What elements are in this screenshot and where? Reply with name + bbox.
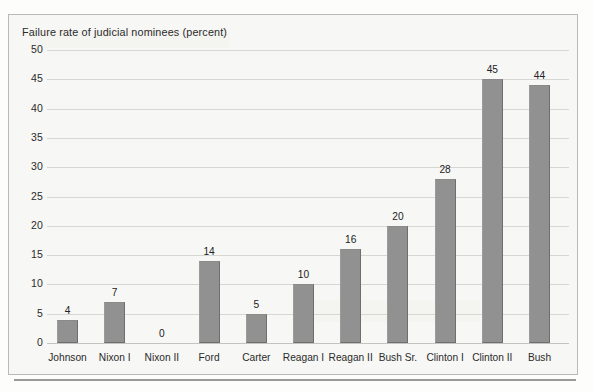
value-label-bush: 44 — [520, 70, 560, 81]
value-label-nixon-i: 7 — [95, 287, 135, 298]
value-label-ford: 14 — [189, 246, 229, 257]
y-tick-label-45: 45 — [17, 72, 43, 84]
chart-figure: Failure rate of judicial nominees (perce… — [0, 0, 593, 392]
value-label-carter: 5 — [236, 299, 276, 310]
y-tick-label-30: 30 — [17, 160, 43, 172]
bar-reagan-i — [293, 284, 314, 343]
bar-clinton-ii — [482, 79, 503, 343]
chart-title: Failure rate of judicial nominees (perce… — [22, 26, 227, 38]
bar-reagan-ii — [340, 249, 361, 343]
gridline-50 — [47, 50, 569, 51]
y-tick-label-10: 10 — [17, 277, 43, 289]
y-tick-label-15: 15 — [17, 248, 43, 260]
value-label-clinton-ii: 45 — [472, 64, 512, 75]
value-label-reagan-ii: 16 — [331, 234, 371, 245]
y-tick-label-5: 5 — [17, 307, 43, 319]
bar-johnson — [57, 320, 78, 343]
bar-clinton-i — [435, 179, 456, 343]
y-tick-label-25: 25 — [17, 190, 43, 202]
y-tick-label-40: 40 — [17, 102, 43, 114]
bar-carter — [246, 314, 267, 343]
value-label-nixon-ii: 0 — [142, 328, 182, 339]
bar-nixon-i — [104, 302, 125, 343]
value-label-johnson: 4 — [48, 305, 88, 316]
value-label-reagan-i: 10 — [284, 269, 324, 280]
gridline-0 — [47, 343, 569, 344]
category-label-bush: Bush — [508, 352, 572, 363]
plot-area: Failure rate of judicial nominees (perce… — [0, 0, 593, 392]
y-tick-label-50: 50 — [17, 43, 43, 55]
bar-bush — [529, 85, 550, 343]
value-label-bush-sr: 20 — [378, 211, 418, 222]
y-tick-label-20: 20 — [17, 219, 43, 231]
bottom-rule — [14, 379, 576, 381]
value-label-clinton-i: 28 — [425, 164, 465, 175]
bar-bush-sr — [387, 226, 408, 343]
bar-ford — [199, 261, 220, 343]
y-tick-label-35: 35 — [17, 131, 43, 143]
y-tick-label-0: 0 — [17, 336, 43, 348]
